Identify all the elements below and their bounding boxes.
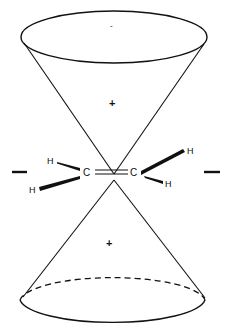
- upper-cone-apex-tick: -: [110, 21, 113, 30]
- upper-cone-rim: [21, 11, 207, 63]
- bond-wedge-left-lower: [39, 176, 80, 191]
- lower-cone-left-edge: [23, 180, 114, 297]
- double-cone-diagram: - + + C C H H H H: [0, 0, 226, 330]
- hydrogen-right-upper: H: [187, 146, 194, 156]
- hydrogen-left-lower: H: [29, 185, 36, 195]
- diagram-canvas: - + + C C H H H H: [0, 0, 226, 330]
- bond-wedge-right-lower: [144, 176, 163, 184]
- bond-wedge-right-upper: [141, 149, 185, 175]
- lower-cone-rim-front: [20, 300, 205, 322]
- ethylene-molecule: C C H H H H: [29, 146, 194, 195]
- carbon-left-label: C: [83, 167, 90, 178]
- lower-cone-rim-back: [20, 278, 205, 300]
- lower-cone-sign: +: [106, 237, 112, 249]
- upper-cone-sign: +: [109, 97, 115, 109]
- bond-wedge-left-upper: [57, 162, 80, 171]
- carbon-right-label: C: [130, 167, 137, 178]
- hydrogen-left-upper: H: [47, 156, 54, 166]
- lower-cone-right-edge: [114, 180, 205, 298]
- hydrogen-right-lower: H: [165, 179, 172, 189]
